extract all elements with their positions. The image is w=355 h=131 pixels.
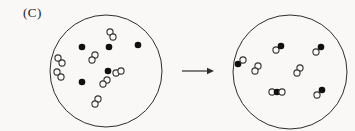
open-atom-circle: [58, 74, 64, 80]
open-atom-circle: [294, 70, 300, 76]
product-container-group: [233, 15, 347, 129]
reactant-container-group: [50, 15, 162, 127]
open-atom-circle: [252, 68, 258, 74]
molecule-open-filled: [314, 87, 325, 98]
molecule-open-open: [113, 68, 124, 76]
atom-filled: [106, 44, 113, 51]
open-atom-circle: [273, 47, 279, 53]
reaction-particle-diagram: (C): [0, 0, 355, 131]
filled-atom-circle: [106, 44, 113, 51]
atom-filled: [79, 44, 86, 51]
open-atom-circle: [89, 57, 95, 63]
molecule-open-filled: [313, 44, 324, 55]
open-atom-circle: [100, 81, 106, 87]
filled-atom-circle: [319, 87, 326, 94]
open-atom-circle: [118, 68, 124, 74]
open-atom-circle: [110, 34, 116, 40]
open-atom-circle: [240, 57, 246, 63]
molecule-open-open: [92, 96, 101, 107]
filled-atom-circle: [79, 44, 86, 51]
molecule-open-filled: [235, 57, 246, 67]
open-atom-circle: [92, 101, 98, 107]
molecule-open-open: [252, 63, 261, 74]
molecule-open-open: [294, 65, 303, 76]
atom-filled: [135, 42, 142, 49]
atom-filled: [105, 68, 112, 75]
molecule-open-open: [54, 69, 64, 80]
molecule-open-filled: [273, 43, 284, 53]
product-flask-circle: [233, 15, 347, 129]
arrow-head: [207, 68, 214, 74]
reaction-arrow-icon: [182, 68, 214, 74]
molecule-open-open: [107, 29, 116, 40]
open-atom-circle: [314, 92, 320, 98]
molecule-open-open: [89, 52, 98, 63]
open-atom-circle: [313, 49, 319, 55]
filled-atom-circle: [79, 79, 86, 86]
open-atom-circle: [59, 60, 65, 66]
molecule-open-filled-open: [269, 89, 285, 96]
filled-atom-circle: [318, 44, 325, 51]
molecule-open-open: [55, 55, 65, 66]
filled-atom-circle: [105, 68, 112, 75]
open-atom-circle: [279, 89, 285, 95]
filled-atom-circle: [135, 42, 142, 49]
atom-filled: [79, 79, 86, 86]
molecule-open-open: [100, 77, 110, 87]
filled-atom-circle: [278, 43, 285, 50]
reaction-diagram-canvas: [0, 0, 355, 131]
